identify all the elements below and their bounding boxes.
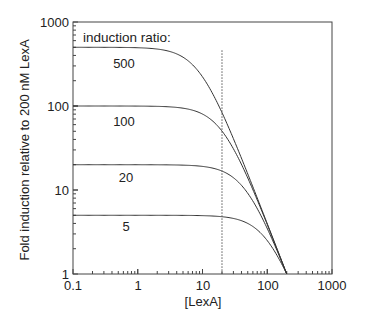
legend-title: induction ratio:: [83, 30, 171, 45]
series-label-20: 20: [119, 170, 133, 185]
y-tick-label: 100: [47, 99, 69, 114]
y-tick-label: 1000: [40, 15, 69, 30]
x-axis-title: [LexA]: [185, 294, 222, 309]
chart-canvas: 0.1 1 10 100 1000 1 10 100 1000 [LexA] F…: [0, 0, 365, 327]
curve-ratio-500: [73, 47, 287, 274]
y-tick-label: 10: [55, 183, 69, 198]
y-tick-label: 1: [62, 267, 69, 282]
y-axis-title: Fold induction relative to 200 nM LexA: [17, 39, 32, 260]
x-tick-label: 100: [257, 278, 279, 293]
curve-ratio-5: [73, 215, 287, 274]
curve-ratio-20: [73, 165, 287, 274]
plot-frame: [73, 22, 332, 274]
x-tick-label: 10: [196, 278, 210, 293]
axis-ticks: [73, 22, 332, 274]
curve-ratio-100: [73, 106, 287, 274]
data-curves: [73, 47, 287, 274]
series-label-500: 500: [113, 56, 135, 71]
series-label-5: 5: [122, 219, 129, 234]
x-tick-label: 1: [134, 278, 141, 293]
series-label-100: 100: [113, 114, 135, 129]
x-tick-label: 1000: [318, 278, 347, 293]
